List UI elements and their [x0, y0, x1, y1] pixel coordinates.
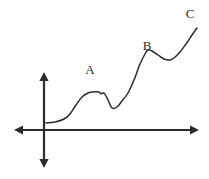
point-label-a: A — [85, 62, 95, 77]
point-label-c: C — [186, 6, 195, 21]
y-axis-bottom-arrowhead — [39, 159, 48, 168]
axes-group — [14, 72, 199, 168]
curve-group — [46, 28, 197, 123]
data-curve — [46, 28, 197, 123]
x-axis-left-arrowhead — [14, 125, 23, 134]
curve-figure: ABC — [0, 0, 209, 179]
x-axis-right-arrowhead — [190, 125, 199, 134]
y-axis-top-arrowhead — [39, 72, 48, 81]
point-label-b: B — [143, 38, 152, 53]
figure-canvas: ABC — [0, 0, 209, 179]
